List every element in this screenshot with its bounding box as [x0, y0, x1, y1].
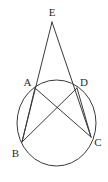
vertex-label-b: B — [12, 147, 19, 159]
vertex-label-a: A — [24, 76, 32, 88]
vertex-label-e: E — [49, 6, 56, 18]
geometry-canvas: E A D B C — [0, 0, 108, 182]
vertex-label-d: D — [80, 76, 88, 88]
segment-b-d — [22, 88, 77, 142]
segment-a-b — [22, 88, 35, 142]
circumscribed-circle — [17, 80, 96, 166]
segment-d-c — [77, 88, 91, 137]
geometry-figure: E A D B C — [0, 0, 108, 182]
vertex-label-c: C — [94, 136, 101, 148]
